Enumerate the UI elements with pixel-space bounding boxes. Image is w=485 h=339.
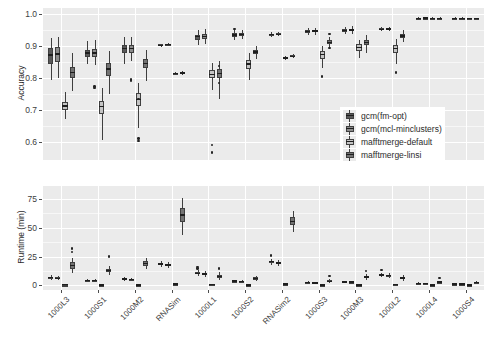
x-tick-mark (208, 290, 209, 293)
boxplot-median (217, 276, 222, 277)
boxplot-median (349, 29, 354, 30)
x-tick-mark (429, 290, 430, 293)
boxplot-median (62, 105, 67, 106)
gridline-major (43, 46, 484, 47)
gridline-major (43, 199, 484, 200)
boxplot-median (437, 18, 442, 19)
x-tick-label: RNASim2 (253, 295, 292, 334)
boxplot-outlier (71, 251, 73, 253)
boxplot-outlier (196, 267, 198, 269)
boxplot-median (327, 281, 332, 282)
boxplot-median (423, 283, 428, 284)
boxplot-outlier (211, 144, 213, 146)
gridline-vertical (282, 8, 283, 160)
legend-item-0[interactable]: gcm(fm-opt) (343, 109, 442, 122)
y-tick-label: 0.7 (7, 105, 37, 115)
legend-key-icon (343, 123, 356, 135)
y-tick-mark (39, 228, 42, 229)
boxplot-median (364, 276, 369, 277)
y-tick-label: 0 (7, 280, 37, 290)
boxplot-median (253, 278, 258, 279)
x-tick-mark (282, 290, 283, 293)
gridline-vertical (392, 186, 393, 290)
legend-key-icon (343, 110, 356, 122)
boxplot-median (55, 53, 60, 54)
gridline-minor (43, 242, 484, 243)
boxplot-median (327, 42, 332, 43)
gridline-vertical (98, 186, 99, 290)
boxplot-median (232, 280, 237, 281)
gridline-vertical (172, 8, 173, 160)
gridline-vertical (319, 8, 320, 160)
boxplot-median (173, 283, 178, 284)
x-tick-label: 1000S4 (437, 295, 476, 334)
runtime-panel (43, 186, 484, 290)
gridline-vertical (319, 186, 320, 290)
y-tick-mark (39, 199, 42, 200)
boxplot-rect (106, 63, 111, 76)
boxplot-outlier (380, 269, 382, 271)
boxplot-median (180, 72, 185, 73)
boxplot-median (459, 283, 464, 284)
boxplot-median (356, 47, 361, 48)
gridline-vertical (245, 8, 246, 160)
boxplot-median (143, 63, 148, 64)
boxplot-median (253, 51, 258, 52)
boxplot-median (92, 280, 97, 281)
boxplot-median (452, 18, 457, 19)
boxplot-median (393, 284, 398, 285)
legend: gcm(fm-opt)gcm(mcl-minclusters)mafftmerg… (340, 107, 445, 163)
boxplot-median (129, 279, 134, 280)
x-tick-label: 1000S3 (290, 295, 329, 334)
y-tick-mark (39, 285, 42, 286)
boxplot-median (290, 56, 295, 57)
boxplot-median (474, 18, 479, 19)
boxplot-median (342, 281, 347, 282)
legend-item-1[interactable]: gcm(mcl-minclusters) (343, 122, 442, 135)
x-tick-label: 1000M2 (106, 295, 145, 334)
boxplot-median (269, 34, 274, 35)
boxplot-median (452, 283, 457, 284)
legend-item-label: mafftmerge-default (361, 137, 432, 147)
boxplot-median (92, 52, 97, 53)
x-tick-label: 1000L1 (180, 295, 219, 334)
boxplot-median (364, 42, 369, 43)
gridline-vertical (466, 8, 467, 160)
gridline-vertical (282, 186, 283, 290)
gridline-vertical (245, 186, 246, 290)
boxplot-median (106, 68, 111, 69)
boxplot-median (416, 283, 421, 284)
gridline-vertical (172, 186, 173, 290)
boxplot-median (217, 73, 222, 74)
legend-item-3[interactable]: mafftmerge-linsi (343, 148, 442, 161)
x-tick-mark (392, 290, 393, 293)
boxplot-median (99, 106, 104, 107)
boxplot-outlier (233, 28, 235, 30)
legend-item-2[interactable]: mafftmerge-default (343, 135, 442, 148)
gridline-vertical (429, 186, 430, 290)
boxplot-median (70, 72, 75, 73)
y-tick-mark (39, 142, 42, 143)
y-tick-label: 25 (7, 252, 37, 262)
boxplot-median (400, 277, 405, 278)
boxplot-median (276, 262, 281, 263)
x-tick-label: 1000L3 (33, 295, 72, 334)
boxplot-median (320, 54, 325, 55)
boxplot-median (459, 18, 464, 19)
boxplot-median (62, 284, 67, 285)
boxplot-outlier (71, 247, 73, 249)
boxplot-outlier (137, 140, 139, 142)
boxplot-median (320, 284, 325, 285)
boxplot-rect (48, 48, 53, 64)
boxplot-median (173, 73, 178, 74)
boxplot-median (232, 34, 237, 35)
runtime-axis-title: Runtime (min) (16, 197, 26, 277)
boxplot-median (55, 278, 60, 279)
gridline-vertical (355, 186, 356, 290)
boxplot-median (437, 281, 442, 282)
x-tick-mark (172, 290, 173, 293)
x-tick-mark (466, 290, 467, 293)
y-tick-label: 0.9 (7, 41, 37, 51)
x-tick-label: 1000M3 (327, 295, 366, 334)
boxplot-median (416, 18, 421, 19)
